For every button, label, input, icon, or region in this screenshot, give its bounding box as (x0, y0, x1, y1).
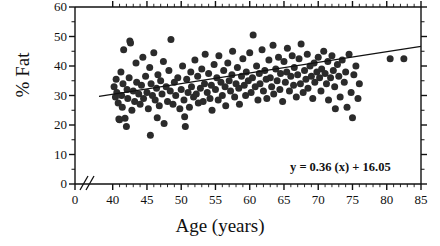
data-point (220, 67, 227, 74)
data-point (188, 83, 195, 90)
data-point (320, 48, 327, 55)
data-point (209, 107, 216, 114)
data-point (222, 102, 229, 109)
data-point (137, 101, 144, 108)
data-point (154, 114, 161, 121)
data-point (124, 95, 131, 102)
data-point (174, 74, 181, 81)
data-point (248, 89, 255, 96)
data-point (337, 93, 344, 100)
data-point (150, 49, 157, 56)
x-tick-label: 85 (401, 192, 440, 208)
data-point (315, 54, 322, 61)
data-point (147, 132, 154, 139)
data-point (316, 74, 323, 81)
data-point (146, 64, 153, 71)
data-point (128, 107, 135, 114)
data-point (352, 63, 359, 70)
data-point (179, 63, 186, 70)
data-point (200, 98, 207, 105)
data-point (328, 52, 335, 59)
data-point (274, 77, 281, 84)
data-point (331, 83, 338, 90)
data-point (286, 88, 293, 95)
data-point (224, 60, 231, 67)
data-point (296, 55, 303, 62)
data-point (332, 105, 339, 112)
data-point (160, 58, 167, 65)
y-tick-label: 60 (33, 0, 67, 15)
data-point (297, 80, 304, 87)
data-point (265, 57, 272, 64)
data-point (268, 83, 275, 90)
data-point (182, 123, 189, 130)
data-point (309, 95, 316, 102)
data-point (169, 101, 176, 108)
data-point (157, 77, 164, 84)
data-point (277, 70, 284, 77)
data-point (289, 52, 296, 59)
data-point (294, 71, 301, 78)
y-tick-label: 40 (33, 58, 67, 74)
data-point (127, 39, 134, 46)
data-point (219, 92, 226, 99)
data-point (344, 104, 351, 111)
data-point (325, 96, 332, 103)
data-point (304, 85, 311, 92)
data-point (348, 89, 355, 96)
data-point (301, 67, 308, 74)
data-point (231, 93, 238, 100)
data-point (356, 80, 363, 87)
data-point (287, 73, 294, 80)
data-point (185, 89, 192, 96)
data-point (156, 102, 163, 109)
data-point (227, 88, 234, 95)
data-point (350, 71, 357, 78)
data-point (119, 104, 126, 111)
data-point (159, 91, 166, 98)
data-point (304, 51, 311, 58)
data-point (279, 98, 286, 105)
data-point (206, 95, 213, 102)
data-point (250, 32, 257, 39)
data-point (187, 68, 194, 75)
trendline (99, 46, 421, 96)
data-point (186, 104, 193, 111)
y-tick-label: 20 (33, 117, 67, 133)
data-point (322, 70, 329, 77)
data-point (335, 73, 342, 80)
data-point (342, 68, 349, 75)
data-point (293, 93, 300, 100)
scatter-plot-figure: % Fat Age (years) y = 0.36 (x) + 16.05 0… (0, 0, 440, 246)
data-point (205, 70, 212, 77)
y-tick-label: 30 (33, 88, 67, 104)
data-point (222, 83, 229, 90)
data-point (290, 82, 297, 89)
data-point (167, 88, 174, 95)
data-point (276, 86, 283, 93)
data-point (275, 54, 282, 61)
data-point (193, 91, 200, 98)
data-point (198, 65, 205, 72)
data-point (330, 67, 337, 74)
data-point (354, 95, 361, 102)
data-point (167, 36, 174, 43)
data-point (234, 64, 241, 71)
data-point (253, 63, 260, 70)
y-tick-label: 10 (33, 147, 67, 163)
x-tick-label: 0 (55, 192, 95, 208)
data-point (259, 46, 266, 53)
data-point (270, 91, 277, 98)
data-point (133, 60, 140, 67)
data-point (327, 74, 334, 81)
data-point (236, 101, 243, 108)
data-point (282, 79, 289, 86)
data-point (211, 61, 218, 68)
data-point (113, 76, 120, 83)
data-point (298, 40, 305, 47)
y-tick-label: 0 (33, 176, 67, 192)
data-point (270, 42, 277, 49)
data-point (145, 105, 152, 112)
data-point (140, 95, 147, 102)
data-point (254, 96, 261, 103)
